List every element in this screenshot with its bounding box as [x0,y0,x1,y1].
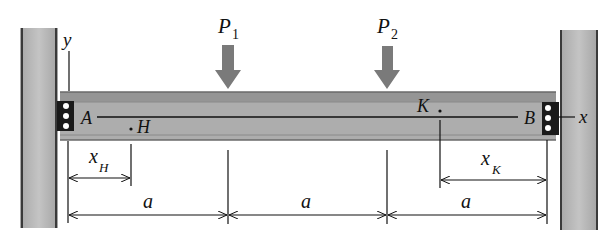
span-3-label: a [461,190,471,212]
dimension-xk-symbol: x [480,147,490,169]
load-p1: P 1 [215,14,241,89]
load-p2-arrow-icon [374,46,400,89]
dimension-xh-symbol: x [88,145,98,167]
beam-diagram: y x A B H K P 1 P 2 x H x K [0,0,612,243]
right-column [560,30,598,230]
left-column [20,28,58,228]
load-p1-subscript: 1 [232,27,239,42]
dimension-xh: x H [69,145,130,178]
dimension-xh-subscript: H [98,160,109,175]
dimension-xk-subscript: K [491,162,502,177]
support-a-label: A [80,108,93,128]
load-p2: P 2 [374,14,400,89]
point-k-label: K [416,96,430,116]
beam [60,92,556,140]
load-p1-arrow-icon [215,45,241,89]
load-p2-subscript: 2 [391,27,398,42]
left-bolt-plate [57,101,74,131]
span-2-label: a [301,190,311,212]
right-bolt-plate [542,102,559,135]
support-b-label: B [524,108,535,128]
point-k-marker [438,109,441,112]
load-p2-symbol: P [376,14,390,38]
span-1-label: a [143,190,153,212]
span-dimensions: a a a [69,190,546,215]
dimension-xk: x K [441,147,546,180]
y-axis-label: y [61,29,72,50]
point-h-label: H [136,117,151,137]
x-axis-label: x [578,106,588,127]
load-p1-symbol: P [217,14,231,38]
point-h-marker [129,127,132,130]
